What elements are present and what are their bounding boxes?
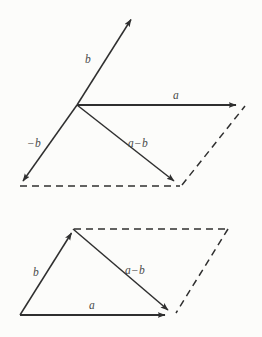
figure-canvas: b a −b a−b b a−b a [0, 0, 262, 337]
top-label-b: b [85, 53, 91, 65]
vector-diagram-svg: b a −b a−b b a−b a [0, 0, 262, 337]
bottom-dashed-right-edge [176, 229, 228, 313]
top-dashed-right-edge [182, 106, 245, 185]
bottom-vector-a-minus-b-arrow [73, 229, 168, 310]
bottom-label-b: b [33, 266, 39, 278]
top-label-a-minus-b: a−b [128, 137, 148, 149]
top-diagram: b a −b a−b [20, 20, 245, 187]
bottom-diagram: b a−b a [20, 229, 228, 315]
top-vector-a-minus-b-arrow [77, 105, 174, 181]
top-label-a: a [173, 89, 179, 101]
top-label-neg-b: −b [27, 137, 41, 149]
bottom-vector-b-arrow [20, 233, 72, 315]
bottom-dashed-edges [74, 229, 228, 313]
bottom-label-a-minus-b: a−b [125, 264, 145, 276]
bottom-label-a: a [89, 299, 95, 311]
